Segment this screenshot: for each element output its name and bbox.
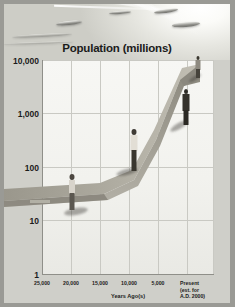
x-tick-label-15000: 15,000 (92, 280, 108, 287)
light-ray (29, 4, 205, 35)
figure-torso (69, 180, 75, 194)
x-axis-labels: 25,000 20,000 15,000 10,000 5,000 Presen… (42, 280, 222, 303)
person-mid-rise (180, 89, 191, 125)
x-tick-label-5000: 5,000 (152, 280, 165, 287)
figure-torso (131, 135, 138, 151)
x-tick-label-20000: 20,000 (63, 280, 79, 287)
y-tick-label-10: 10 (30, 217, 39, 226)
person-on-slope (128, 129, 140, 171)
figure-torso (182, 94, 189, 111)
cloud-streak (172, 21, 200, 28)
x-tick-label-10000: 10,000 (121, 280, 137, 287)
x-axis-title: Years Ago(s) (42, 293, 214, 299)
y-tick-label-10000: 10,000 (13, 57, 39, 66)
illustration-plate: Population (millions) 10,000 1,000 100 1… (4, 4, 230, 303)
y-axis-line (42, 60, 43, 275)
cloud-streak (154, 8, 178, 15)
figure-legs (183, 110, 188, 125)
x-tick-label-25000: 25,000 (34, 280, 50, 287)
y-tick-label-1000: 1,000 (18, 110, 39, 119)
cloud-streak (56, 20, 82, 27)
light-ray (4, 4, 204, 22)
chart-title: Population (millions) (4, 42, 230, 54)
figure-legs (70, 193, 75, 210)
gridline-horizontal (42, 60, 214, 61)
y-axis-labels: 10,000 1,000 100 10 1 (4, 60, 39, 275)
screenshot-root: Population (millions) 10,000 1,000 100 1… (0, 0, 235, 307)
figure-legs (196, 69, 200, 78)
person-at-top (193, 56, 202, 78)
x-axis-line (42, 274, 214, 275)
cloud-streak (12, 32, 72, 38)
gridline-horizontal (42, 220, 214, 221)
figure-legs (132, 150, 137, 171)
y-tick-label-100: 100 (25, 164, 39, 173)
cloud-streak (109, 10, 131, 15)
person-on-plateau (66, 174, 78, 210)
y-tick-label-1: 1 (34, 271, 39, 280)
